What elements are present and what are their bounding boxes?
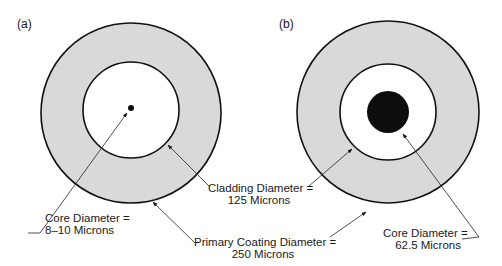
cladding-label-line2: 125 Microns bbox=[208, 194, 310, 206]
fiber-b-diagram bbox=[297, 21, 479, 239]
core-label-a-line1: Core Diameter = bbox=[45, 212, 130, 224]
fiber-a-diagram bbox=[28, 23, 221, 243]
core-label-a-line2: 8–10 Microns bbox=[45, 224, 130, 236]
coating-label-line1: Primary Coating Diameter = bbox=[194, 236, 332, 248]
coating-leader-b bbox=[330, 212, 366, 237]
core-circle-b bbox=[367, 91, 409, 133]
coating-leader-a bbox=[153, 202, 195, 243]
coating-label: Primary Coating Diameter = 250 Microns bbox=[194, 236, 332, 260]
core-label-b: Core Diameter = 62.5 Microns bbox=[383, 227, 461, 251]
coating-label-line2: 250 Microns bbox=[194, 248, 332, 260]
panel-a-tag: (a) bbox=[17, 17, 32, 31]
core-dot-a bbox=[128, 105, 134, 111]
core-label-b-line1: Core Diameter = bbox=[383, 227, 461, 239]
core-label-b-line2: 62.5 Microns bbox=[383, 239, 461, 251]
cladding-label: Cladding Diameter = 125 Microns bbox=[208, 182, 310, 206]
core-label-a: Core Diameter = 8–10 Microns bbox=[45, 212, 130, 236]
cladding-label-line1: Cladding Diameter = bbox=[208, 182, 310, 194]
panel-b-tag: (b) bbox=[279, 17, 294, 31]
